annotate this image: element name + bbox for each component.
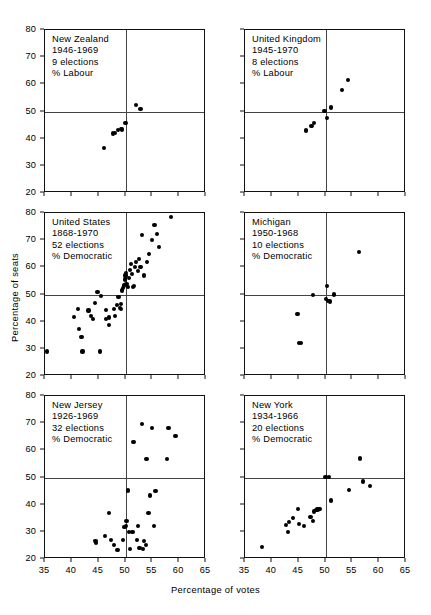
y-tick-label: 40 xyxy=(14,316,36,326)
caption-line: 1950-1968 xyxy=(252,228,312,239)
x-tick-mark xyxy=(97,558,98,562)
panel-united-states: United States1868-197052 elections% Demo… xyxy=(44,212,205,375)
data-point xyxy=(146,511,150,515)
data-point xyxy=(144,457,148,461)
y-tick-label: 30 xyxy=(14,526,36,536)
y-tick-mark xyxy=(240,503,244,504)
data-point xyxy=(329,105,333,109)
data-point xyxy=(311,293,315,297)
y-tick-mark xyxy=(40,422,44,423)
y-tick-mark xyxy=(240,212,244,213)
data-point xyxy=(77,327,81,331)
data-point xyxy=(107,315,111,319)
data-point xyxy=(347,488,351,492)
panel-caption-new-zealand: New Zealand1946-19699 elections% Labour xyxy=(52,34,109,80)
data-point xyxy=(45,349,49,353)
data-point xyxy=(112,543,116,547)
data-point xyxy=(94,541,98,545)
data-point xyxy=(329,498,333,502)
data-point xyxy=(119,302,123,306)
data-point xyxy=(361,479,365,483)
x-tick-mark xyxy=(324,192,325,196)
x-tick-mark xyxy=(97,375,98,379)
y-tick-mark xyxy=(40,347,44,348)
x-tick-mark xyxy=(44,192,45,196)
x-tick-mark xyxy=(70,558,71,562)
panel-caption-united-kingdom: United Kingdom1945-19708 elections% Labo… xyxy=(252,34,321,80)
data-point xyxy=(332,292,336,296)
panel-new-york: New York1934-196620 elections% Democrati… xyxy=(244,395,405,558)
x-tick-mark xyxy=(70,375,71,379)
data-point xyxy=(124,524,128,528)
y-tick-mark xyxy=(40,164,44,165)
caption-line: Michigan xyxy=(252,217,312,228)
scatter-panel-figure: Percentage of seats Percentage of votes … xyxy=(0,0,431,615)
data-point xyxy=(141,547,145,551)
data-point xyxy=(312,121,316,125)
y-tick-mark xyxy=(40,293,44,294)
y-tick-mark xyxy=(40,239,44,240)
caption-line: New York xyxy=(252,400,312,411)
data-point xyxy=(140,422,144,426)
data-point xyxy=(80,349,84,353)
panel-united-kingdom: United Kingdom1945-19708 elections% Labo… xyxy=(244,29,405,192)
x-tick-mark xyxy=(324,558,325,562)
y-tick-mark xyxy=(240,137,244,138)
x-tick-mark xyxy=(244,558,245,562)
caption-line: % Democratic xyxy=(252,434,312,445)
x-tick-label: 60 xyxy=(166,565,190,575)
data-point xyxy=(152,223,156,227)
data-point xyxy=(173,434,177,438)
y-tick-mark xyxy=(240,110,244,111)
x-tick-mark xyxy=(70,192,71,196)
x-tick-mark xyxy=(270,192,271,196)
y-tick-label: 60 xyxy=(14,78,36,88)
x-tick-label: 50 xyxy=(113,565,137,575)
data-point xyxy=(103,534,107,538)
panel-new-zealand: New Zealand1946-19699 elections% Labour xyxy=(44,29,205,192)
data-point xyxy=(142,273,146,277)
y-tick-mark xyxy=(40,137,44,138)
x-tick-mark xyxy=(378,192,379,196)
y-tick-mark xyxy=(40,395,44,396)
data-point xyxy=(107,323,111,327)
data-point xyxy=(109,538,113,542)
x-tick-mark xyxy=(205,192,206,196)
y-tick-mark xyxy=(40,266,44,267)
y-tick-label: 50 xyxy=(14,106,36,116)
data-point xyxy=(297,522,301,526)
data-point xyxy=(79,335,83,339)
x-tick-mark xyxy=(405,192,406,196)
caption-line: 1868-1970 xyxy=(52,228,112,239)
data-point xyxy=(153,489,157,493)
data-point xyxy=(346,78,350,82)
data-point xyxy=(131,440,135,444)
data-point xyxy=(104,308,108,312)
data-point xyxy=(311,519,315,523)
x-tick-mark xyxy=(44,375,45,379)
x-tick-mark xyxy=(151,558,152,562)
panel-caption-united-states: United States1868-197052 elections% Demo… xyxy=(52,217,112,263)
x-tick-label: 55 xyxy=(339,565,363,575)
panel-caption-michigan: Michigan1950-196810 elections% Democrati… xyxy=(252,217,312,263)
y-tick-mark xyxy=(40,503,44,504)
data-point xyxy=(95,290,99,294)
y-tick-mark xyxy=(240,293,244,294)
data-point xyxy=(126,285,130,289)
data-point xyxy=(135,538,139,542)
y-tick-mark xyxy=(240,83,244,84)
x-tick-mark xyxy=(405,558,406,562)
x-tick-label: 65 xyxy=(393,565,417,575)
caption-line: New Jersey xyxy=(52,400,112,411)
y-tick-mark xyxy=(40,449,44,450)
data-point xyxy=(98,349,102,353)
x-tick-mark xyxy=(297,558,298,562)
data-point xyxy=(150,238,154,242)
data-point xyxy=(116,295,120,299)
y-tick-mark xyxy=(40,29,44,30)
data-point xyxy=(147,252,151,256)
caption-line: % Democratic xyxy=(252,251,312,262)
caption-line: 52 elections xyxy=(52,240,112,251)
panel-michigan: Michigan1950-196810 elections% Democrati… xyxy=(244,212,405,375)
caption-line: 1945-1970 xyxy=(252,45,321,56)
